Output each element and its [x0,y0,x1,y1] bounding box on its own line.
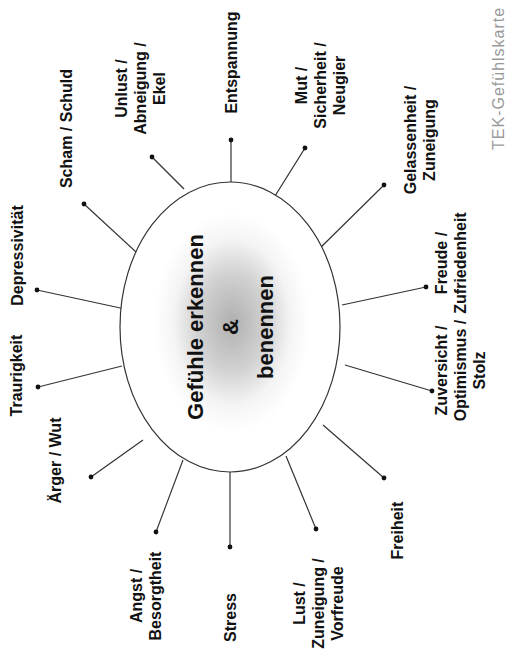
emotion-label-line: Freude / [431,212,450,313]
spoke-dot-freude [424,285,429,290]
emotion-label-mut: Mut /Sicherheit /Neugier [292,42,349,128]
spoke-line-unlust [152,157,184,189]
spoke-line-aerger [91,440,143,477]
spoke-dot-freiheit [382,476,387,481]
spoke-line-freiheit [323,425,384,478]
center-title-line-2: & [213,234,248,420]
emotion-label-line: Stolz [470,319,489,420]
watermark: TEK-Gefühlskarte [490,0,506,150]
emotion-label-freude: Freude /Zufriedenheit [431,212,469,313]
emotion-label-depressivitaet: Depressivität [7,205,26,306]
emotion-label-line: Scham / Schuld [57,68,76,187]
spoke-dot-lust [314,527,319,532]
emotion-label-line: Freiheit [388,501,407,559]
emotion-label-line: Optimismus / [451,319,470,420]
spoke-dot-aerger [89,475,94,480]
emotion-label-line: Gelassenheit / [401,86,420,195]
spoke-line-traurigkeit [38,366,122,387]
emotion-label-line: Stress [220,593,239,642]
emotion-label-line: Zuneigung [420,86,439,195]
emotion-label-line: Ekel [150,42,169,134]
spoke-line-angst [156,460,183,532]
spoke-line-mut [275,148,305,196]
emotion-label-entspannung: Entspannung [222,11,241,113]
emotion-label-line: Ärger / Wut [46,417,65,503]
emotion-label-scham: Scham / Schuld [57,68,76,187]
spoke-line-lust [286,456,316,529]
spoke-line-gelassenheit [313,185,384,255]
spoke-dot-stress [228,545,233,550]
emotion-label-line: Abneigung / [131,42,150,134]
spoke-dot-scham [82,202,87,207]
center-title-line-3: benennen [248,234,283,420]
emotion-label-line: Zuversicht / [432,319,451,420]
spoke-dot-mut [303,146,308,151]
emotion-label-gelassenheit: Gelassenheit /Zuneigung [401,86,439,195]
emotion-label-stress: Stress [220,593,239,642]
center-title-line-1: Gefühle erkennen [178,234,213,420]
emotion-label-zuversicht: Zuversicht /Optimismus /Stolz [432,319,489,420]
emotion-label-freiheit: Freiheit [388,501,407,559]
spoke-dot-unlust [150,155,155,160]
spoke-line-zuversicht [345,365,432,391]
spoke-dot-entspannung [229,138,234,143]
emotion-label-line: Zuneigung / [308,558,327,649]
emotion-label-line: Zufriedenheit [450,212,469,313]
spoke-dot-gelassenheit [382,183,387,188]
spoke-dot-traurigkeit [36,385,41,390]
emotion-label-line: Sicherheit / [311,42,330,128]
spoke-line-freude [342,287,426,305]
emotion-label-line: Vorfreude [327,558,346,649]
emotion-label-aerger: Ärger / Wut [46,417,65,503]
emotion-label-line: Entspannung [222,11,241,113]
emotion-label-line: Traurigkeit [7,334,26,416]
emotion-label-line: Mut / [292,42,311,128]
emotion-label-lust: Lust /Zuneigung /Vorfreude [289,558,346,649]
emotion-label-line: Lust / [289,558,308,649]
emotion-label-line: Besorgtheit [146,552,165,641]
emotion-label-angst: Angst /Besorgtheit [127,552,165,641]
spoke-dot-depressivitaet [35,288,40,293]
emotion-label-line: Neugier [330,42,349,128]
emotion-label-line: Depressivität [7,205,26,306]
emotion-label-traurigkeit: Traurigkeit [7,334,26,416]
emotion-label-line: Unlust / [112,42,131,134]
spoke-dot-angst [154,530,159,535]
emotion-label-line: Angst / [127,552,146,641]
spoke-line-depressivitaet [37,290,125,309]
emotion-label-unlust: Unlust /Abneigung /Ekel [112,42,169,134]
